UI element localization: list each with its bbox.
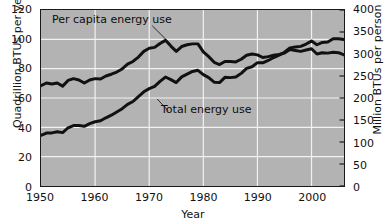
series-label-per-capita: Per capita energy use [52,14,172,25]
y-left-tick-label-60: 60 [0,93,32,104]
y-right-tick-label-350: 350 [353,26,389,37]
y-right-tick-label-150: 150 [353,115,389,126]
y-left-tick-label-80: 80 [0,63,32,74]
y-right-tick-label-250: 250 [353,71,389,82]
y-right-tick-label-100: 100 [353,138,389,149]
y-right-tick-label-400: 400 [353,4,389,15]
x-tick-label-1970: 1970 [126,192,172,203]
x-tick-label-1950: 1950 [17,192,63,203]
series-label-total: Total energy use [161,104,251,115]
series-line-total-energy-use [41,39,344,136]
gridlines [41,10,344,186]
x-tick-label-1960: 1960 [71,192,117,203]
x-tick-label-1990: 1990 [235,192,281,203]
plot-area [40,9,345,187]
x-axis-title: Year [148,209,238,220]
energy-use-chart: Quadrillion BTUs per year Million BTUs p… [0,0,389,223]
y-right-tick-label-0: 0 [353,182,389,193]
x-tick-label-2000: 2000 [289,192,335,203]
y-right-tick-label-50: 50 [353,160,389,171]
y-right-tick-label-300: 300 [353,49,389,60]
y-left-tick-label-120: 120 [0,4,32,15]
plot-canvas [41,10,344,186]
y-left-tick-label-40: 40 [0,123,32,134]
y-right-tick-label-200: 200 [353,93,389,104]
y-left-tick-label-100: 100 [0,34,32,45]
y-left-tick-label-20: 20 [0,152,32,163]
x-tick-label-1980: 1980 [180,192,226,203]
